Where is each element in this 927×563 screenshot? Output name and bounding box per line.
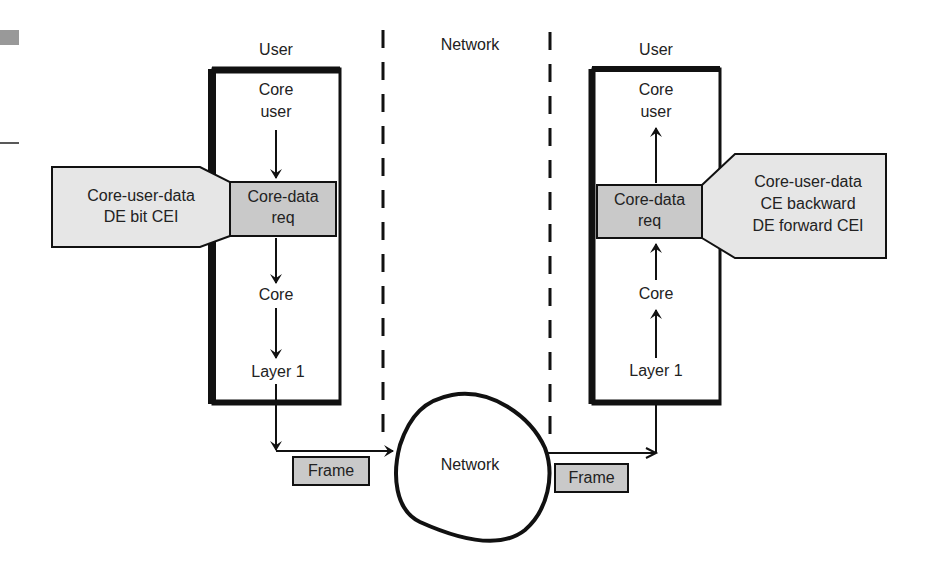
right-user-title: User — [616, 40, 696, 60]
margin-mark — [0, 30, 19, 45]
left-layer1-label: Layer 1 — [230, 362, 326, 382]
right-callout-line2: CE backward — [730, 194, 886, 214]
left-callout-line2: DE bit CEI — [56, 207, 226, 227]
right-req-line1: Core-data — [597, 190, 702, 210]
left-user-title: User — [236, 40, 316, 60]
left-req-line2: req — [230, 208, 336, 228]
left-frame-label: Frame — [293, 461, 369, 481]
right-req-line2: req — [597, 211, 702, 231]
diagram-canvas — [0, 0, 927, 563]
left-callout-line1: Core-user-data — [56, 186, 226, 206]
right-callout-line1: Core-user-data — [730, 172, 886, 192]
right-frame-label: Frame — [555, 468, 628, 488]
left-core-user-line2: user — [236, 102, 316, 122]
left-core-label: Core — [236, 285, 316, 305]
left-core-user-line1: Core — [236, 80, 316, 100]
network-title: Network — [420, 35, 520, 55]
right-core-user-line1: Core — [616, 80, 696, 100]
right-core-user-line2: user — [616, 102, 696, 122]
right-callout-line3: DE forward CEI — [730, 216, 886, 236]
network-cloud-label: Network — [420, 455, 520, 475]
right-core-label: Core — [616, 284, 696, 304]
right-layer1-label: Layer 1 — [608, 361, 704, 381]
left-req-line1: Core-data — [230, 187, 336, 207]
